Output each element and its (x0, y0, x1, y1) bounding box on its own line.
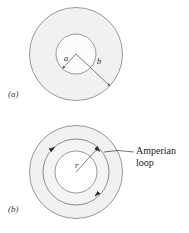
panel-a-outer-radius-label: b (97, 56, 101, 66)
panel-a-group (30, 8, 123, 101)
panel-b-group (30, 126, 135, 219)
figure-coaxial-cable-amperian-loop: (a) (b) a b r Amperian loop (0, 0, 189, 233)
panel-a-inner-radius-label: a (64, 53, 68, 63)
panel-b-caption: (b) (8, 204, 19, 214)
figure-drawing-canvas (0, 0, 189, 233)
amperian-loop-annotation-line-1: Amperian (136, 145, 176, 157)
panel-a-caption: (a) (8, 89, 19, 99)
amperian-loop-annotation: Amperian loop (136, 145, 176, 168)
panel-b-loop-radius-label: r (75, 160, 78, 170)
amperian-loop-annotation-line-2: loop (136, 157, 176, 169)
